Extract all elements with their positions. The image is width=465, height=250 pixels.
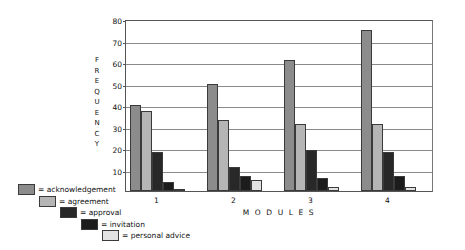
bar bbox=[372, 124, 383, 191]
legend-swatch bbox=[18, 184, 35, 195]
y-axis-title-letter: C bbox=[90, 129, 104, 140]
bar bbox=[383, 152, 394, 191]
y-tick-label: 40 bbox=[112, 103, 122, 112]
bar-chart-figure: FREQUENCY 1020304050607080 1234 M O D U … bbox=[0, 0, 465, 250]
x-tick-label: 1 bbox=[142, 196, 172, 205]
bar bbox=[317, 178, 328, 191]
y-axis-title-letter: Y bbox=[90, 139, 104, 150]
y-tick-label: 50 bbox=[112, 81, 122, 90]
legend-item: = approval bbox=[60, 207, 121, 218]
bar bbox=[251, 180, 262, 191]
bar bbox=[284, 60, 295, 191]
legend-label: = agreement bbox=[59, 197, 109, 206]
legend-label: = invitation bbox=[101, 220, 145, 229]
bar bbox=[152, 152, 163, 191]
bar bbox=[394, 176, 405, 191]
y-tick-label: 20 bbox=[112, 146, 122, 155]
bar bbox=[130, 105, 141, 191]
bar bbox=[218, 120, 229, 191]
bar bbox=[405, 187, 416, 191]
y-axis-title-letter: E bbox=[90, 108, 104, 119]
bar bbox=[306, 150, 317, 191]
bar bbox=[361, 30, 372, 191]
legend-swatch bbox=[81, 219, 98, 230]
legend-item: = personal advice bbox=[102, 230, 190, 241]
y-axis-title-letter: R bbox=[90, 66, 104, 77]
y-axis-title-letter: E bbox=[90, 76, 104, 87]
bar-group bbox=[361, 21, 416, 191]
bar-group bbox=[207, 21, 262, 191]
legend-label: = acknowledgement bbox=[38, 185, 116, 194]
bar bbox=[174, 189, 185, 191]
legend-swatch bbox=[60, 207, 77, 218]
legend-item: = agreement bbox=[39, 196, 109, 207]
legend-swatch bbox=[102, 230, 119, 241]
legend-label: = approval bbox=[80, 208, 121, 217]
bar bbox=[295, 124, 306, 191]
legend-item: = invitation bbox=[81, 219, 145, 230]
y-axis-title: FREQUENCY bbox=[90, 55, 104, 150]
legend-label: = personal advice bbox=[122, 231, 190, 240]
bar bbox=[207, 84, 218, 192]
y-axis-title-letter: N bbox=[90, 118, 104, 129]
y-tick-label: 60 bbox=[112, 60, 122, 69]
bar bbox=[229, 167, 240, 191]
bar bbox=[240, 176, 251, 191]
y-tick-label: 10 bbox=[112, 167, 122, 176]
x-tick-label: 4 bbox=[373, 196, 403, 205]
y-axis-title-letter: Q bbox=[90, 87, 104, 98]
chart-legend: = acknowledgement= agreement= approval= … bbox=[0, 0, 200, 60]
x-tick-label: 2 bbox=[219, 196, 249, 205]
y-axis-title-letter: U bbox=[90, 97, 104, 108]
bar-group bbox=[284, 21, 339, 191]
x-tick-label: 3 bbox=[296, 196, 326, 205]
bar bbox=[328, 187, 339, 191]
bar bbox=[141, 111, 152, 191]
legend-item: = acknowledgement bbox=[18, 184, 116, 195]
bar bbox=[163, 182, 174, 191]
legend-swatch bbox=[39, 196, 56, 207]
y-tick-label: 30 bbox=[112, 124, 122, 133]
x-axis-title: M O D U L E S bbox=[125, 208, 433, 217]
